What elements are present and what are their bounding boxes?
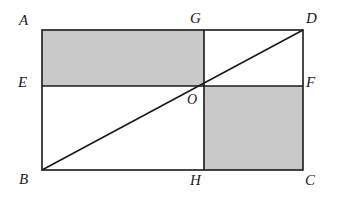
vertex-label-g: G [190,11,201,26]
vertex-label-h: H [190,173,201,188]
vertex-label-b: B [19,172,28,187]
vertex-label-c: C [305,173,315,188]
upper-left-shaded-region [42,30,204,86]
vertex-label-a: A [19,13,28,28]
vertex-label-o: O [187,92,197,107]
lower-right-shaded-region [204,86,303,170]
vertex-label-f: F [306,75,315,90]
geometry-canvas [0,0,342,205]
geometry-figure: A G D E O F B H C [0,0,342,205]
vertex-label-e: E [18,75,27,90]
vertex-label-d: D [306,11,317,26]
